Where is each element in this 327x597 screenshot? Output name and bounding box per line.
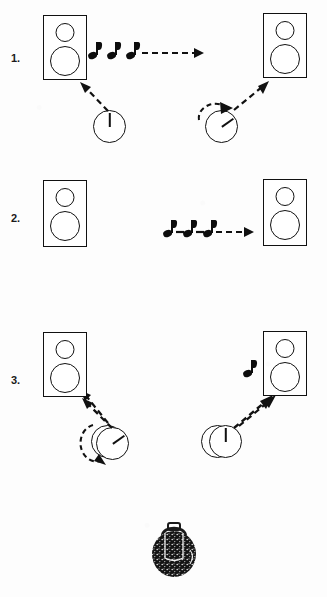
tweeter-icon [56,188,75,207]
eighth-note-icon [126,42,140,59]
woofer-icon [50,363,80,393]
exercise-number-2: 2. [11,212,20,224]
eighth-note-icon [243,360,257,377]
eighth-note-icon [107,42,121,59]
dashed-arrow-up-left-icon [80,396,116,432]
tweeter-icon [276,21,295,40]
tweeter-icon [276,339,295,358]
dashed-arrow-up-left-icon [78,80,112,114]
note-flag [116,42,122,50]
worksheet-page: 1. [0,0,327,597]
tweeter-icon [56,340,75,359]
speaker-right-3 [263,331,307,396]
speaker-left-2 [43,180,87,247]
speaker-right-1 [263,13,307,78]
volume-knob-left-1[interactable] [93,110,126,143]
note-flag [135,42,141,50]
eighth-note-icon [203,220,217,237]
note-flag [172,220,178,228]
eighth-note-icon [183,220,197,237]
knob-pointer [112,435,124,444]
tweeter-icon [276,187,295,206]
exercise-row-3: 3. [0,320,327,490]
eighth-note-icon [88,42,102,59]
backpack-icon [146,518,202,580]
knob-pointer [109,113,111,127]
note-flag [97,42,103,50]
woofer-icon [50,46,80,76]
note-flag [192,220,198,228]
woofer-icon [270,44,300,74]
speaker-right-2 [263,179,307,246]
dashed-arrow-right-icon [216,224,258,240]
woofer-icon [50,211,80,241]
speaker-left-1 [43,15,87,80]
note-flag [252,360,258,368]
woofer-icon [270,210,300,240]
exercise-row-2: 2. [0,160,327,320]
exercise-number-1: 1. [11,52,20,64]
exercise-number-3: 3. [11,374,20,386]
exercise-row-1: 1. [0,0,327,160]
dashed-arrow-right-icon [142,45,208,61]
tweeter-icon [56,23,75,42]
dashed-arrow-up-right-icon [232,80,274,114]
speaker-left-3 [43,332,87,397]
knob-pointer [225,428,227,442]
eighth-note-icon [163,220,177,237]
dashed-arrow-up-right-icon [237,394,281,430]
woofer-icon [270,362,300,392]
